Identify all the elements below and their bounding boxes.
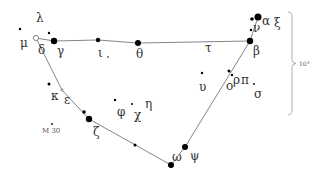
brace-icon (288, 12, 296, 115)
star-nu (250, 29, 252, 31)
label-theta: θ (136, 47, 143, 61)
label-omicron: ο (226, 79, 233, 93)
label-pi: π (241, 73, 249, 87)
star-kappa (48, 83, 51, 86)
star-psi (182, 144, 188, 150)
star-pi_dot (253, 83, 255, 85)
star-chart: ανξβτροπσυθιγδμλκεζωψφχηM 30 10° (0, 0, 330, 180)
label-mu: μ (20, 36, 28, 50)
scale-bracket: 10° (288, 12, 310, 115)
star-phi (114, 99, 116, 101)
label-sigma: σ (254, 87, 262, 101)
label-lambda: λ (36, 11, 44, 25)
star-iota (96, 38, 100, 42)
star-chi (131, 103, 133, 105)
label-psi: ψ (190, 149, 199, 163)
star-lambda (48, 32, 50, 34)
constellation-line (54, 40, 98, 41)
label-m30: M 30 (42, 127, 60, 135)
star-rho (228, 70, 231, 73)
label-kappa: κ (51, 89, 59, 103)
label-xi: ξ (274, 16, 281, 30)
star-delta (33, 35, 38, 40)
constellation-lines (36, 17, 258, 165)
label-alpha: α (262, 14, 270, 28)
label-eta: η (145, 97, 152, 111)
constellation-line (98, 40, 138, 43)
scale-label: 10° (299, 60, 310, 67)
label-beta: β (253, 44, 260, 58)
label-rho: ρ (233, 73, 240, 87)
star-epsilon (61, 89, 63, 91)
label-upsilon: υ (199, 80, 206, 94)
constellation-line (185, 41, 250, 147)
star-theta (135, 40, 141, 46)
label-epsilon: ε (64, 93, 70, 107)
star-alpha (255, 14, 262, 21)
star-mu (19, 28, 21, 30)
label-delta: δ (38, 43, 45, 57)
star-upsilon (201, 72, 203, 74)
star-m30 (51, 123, 53, 125)
label-zeta: ζ (93, 125, 100, 139)
label-gamma: γ (57, 44, 64, 58)
star-zeta1 (82, 110, 86, 114)
star-labels: ανξβτροπσυθιγδμλκεζωψφχηM 30 (20, 11, 281, 164)
label-phi: φ (117, 105, 125, 119)
constellation-line (89, 119, 171, 165)
star-zeta (86, 116, 92, 122)
label-iota: ι (98, 46, 103, 60)
star-z2 (134, 144, 137, 147)
constellation-line (138, 41, 250, 43)
label-omega: ω (172, 150, 182, 164)
label-nu: ν (253, 21, 260, 35)
star-iota_d (107, 56, 109, 58)
label-chi: χ (134, 108, 142, 122)
label-tau: τ (205, 41, 212, 55)
